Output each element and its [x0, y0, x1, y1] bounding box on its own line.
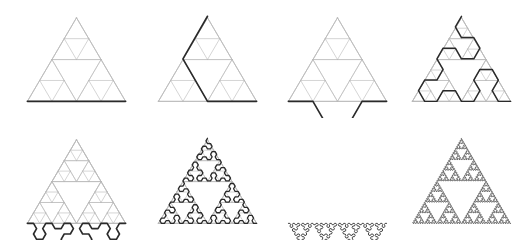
fractal-svg-stage-5 [11, 124, 142, 240]
panel-stage-4 [396, 2, 527, 118]
grid-lines [288, 18, 386, 102]
grid-lines [27, 140, 125, 224]
curve-stage-2 [183, 16, 257, 101]
panel-stage-1 [11, 2, 142, 118]
panel-stage-5 [11, 124, 142, 240]
fractal-svg-stage-6 [142, 124, 273, 240]
curve-stage-8 [413, 138, 511, 223]
curve-stage-7 [288, 223, 386, 240]
panel-stage-2 [142, 2, 273, 118]
grid-lines [158, 18, 256, 102]
panel-stage-7 [272, 124, 403, 240]
curve-stage-3 [288, 101, 386, 118]
fractal-svg-stage-4 [396, 2, 527, 118]
grid-lines [412, 18, 510, 102]
fractal-svg-stage-3 [272, 2, 403, 118]
fractal-svg-stage-1 [11, 2, 142, 118]
panel-stage-8 [396, 124, 527, 240]
curve-stage-6 [160, 138, 257, 223]
curve-stage-4 [419, 16, 511, 101]
curve-stage-5 [27, 223, 125, 240]
fractal-svg-stage-2 [142, 2, 273, 118]
fractal-figure [0, 0, 527, 242]
fractal-svg-stage-7 [272, 124, 403, 240]
grid-lines [158, 140, 256, 224]
grid-lines [27, 18, 125, 102]
panel-stage-6 [142, 124, 273, 240]
fractal-svg-stage-8 [396, 124, 527, 240]
panel-stage-3 [272, 2, 403, 118]
